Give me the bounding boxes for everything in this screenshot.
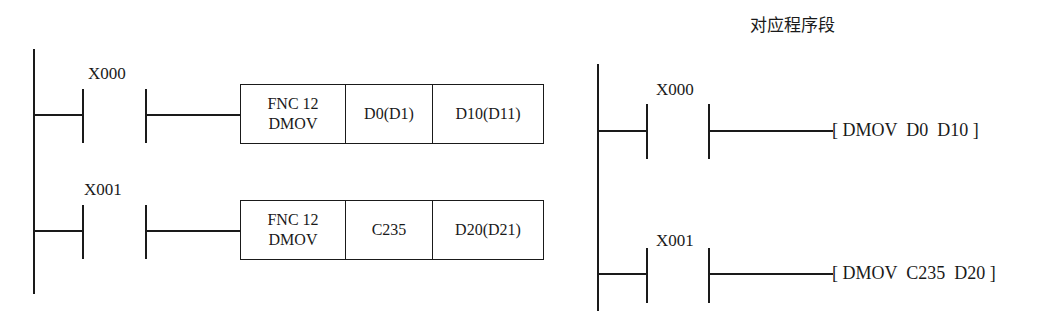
source-operand: D0(D1) bbox=[364, 104, 414, 124]
diagram-title: 对应程序段 bbox=[750, 15, 835, 35]
instruction-text: [ DMOV C235 D20 ] bbox=[832, 263, 996, 283]
instruction-box: FNC 12 DMOV C235 D20(D21) bbox=[240, 200, 544, 260]
function-mnemonic: DMOV bbox=[269, 230, 318, 250]
rung-wire-right bbox=[145, 114, 241, 116]
destination-operand: D10(D11) bbox=[455, 104, 520, 124]
contact-label: X001 bbox=[84, 181, 122, 198]
rung-wire-left bbox=[34, 114, 83, 116]
contact-right-bar bbox=[708, 248, 710, 303]
contact-left-bar bbox=[646, 248, 648, 303]
contact-left-bar bbox=[82, 89, 84, 143]
contact-right-bar bbox=[145, 89, 147, 143]
rung-wire-right bbox=[708, 273, 833, 275]
contact-left-bar bbox=[82, 205, 84, 259]
destination-operand-cell: D10(D11) bbox=[432, 85, 543, 143]
rung-wire-left bbox=[598, 273, 647, 275]
function-code: FNC 12 bbox=[267, 94, 318, 114]
contact-right-bar bbox=[145, 205, 147, 259]
instruction-text: [ DMOV D0 D10 ] bbox=[832, 120, 979, 140]
function-code: FNC 12 bbox=[267, 210, 318, 230]
rung-wire-left bbox=[34, 230, 83, 232]
function-cell: FNC 12 DMOV bbox=[241, 201, 345, 259]
rung-wire-right bbox=[708, 130, 833, 132]
source-operand-cell: D0(D1) bbox=[345, 85, 432, 143]
instruction-box: FNC 12 DMOV D0(D1) D10(D11) bbox=[240, 84, 544, 144]
source-operand-cell: C235 bbox=[345, 201, 432, 259]
function-mnemonic: DMOV bbox=[269, 114, 318, 134]
source-operand: C235 bbox=[372, 220, 407, 240]
function-cell: FNC 12 DMOV bbox=[241, 85, 345, 143]
contact-left-bar bbox=[646, 104, 648, 159]
destination-operand: D20(D21) bbox=[455, 220, 521, 240]
rung-wire-right bbox=[145, 230, 241, 232]
contact-label: X001 bbox=[656, 232, 694, 249]
rung-wire-left bbox=[598, 130, 647, 132]
destination-operand-cell: D20(D21) bbox=[432, 201, 543, 259]
contact-label: X000 bbox=[88, 65, 126, 82]
left-power-rail bbox=[33, 49, 35, 294]
contact-label: X000 bbox=[656, 81, 694, 98]
